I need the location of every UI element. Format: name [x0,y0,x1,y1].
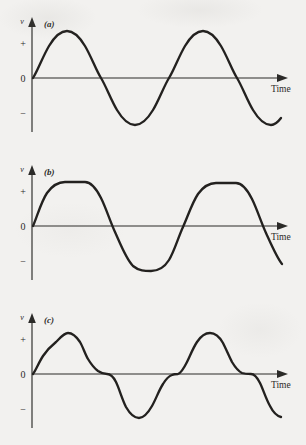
x-axis-arrow-b [277,222,288,230]
x-axis-label-a: Time [271,84,291,94]
tick-zero-c: 0 [21,369,26,380]
tick-negative-a: − [20,108,26,119]
tick-positive-c: + [20,334,26,345]
x-axis-arrow-a [277,74,288,82]
panel-id-a: (a) [44,19,55,29]
waveform-line-c [33,333,281,418]
tick-zero-b: 0 [21,221,26,232]
panel-id-b: (b) [44,167,55,177]
x-axis-arrow-c [277,370,288,378]
x-axis-label-c: Time [271,380,291,390]
tick-positive-a: + [20,38,26,49]
y-axis-label-b: v [20,165,24,174]
y-axis-arrow-a [28,17,36,27]
panel-id-c: (c) [44,315,54,325]
y-axis-label-c: v [20,313,24,322]
tick-zero-a: 0 [21,73,26,84]
tick-negative-c: − [20,404,26,415]
x-axis-label-b: Time [271,232,291,242]
chart-panel-b: v (b) + 0 − Time [0,148,306,296]
chart-panel-a: v (a) + 0 − Time [0,0,306,148]
tick-negative-b: − [20,256,26,267]
waveform-figure: v (a) + 0 − Time v (b) + 0 − Time [0,0,306,445]
y-axis-label-a: v [20,17,24,26]
chart-panel-c: v (c) + 0 − Time [0,296,306,444]
y-axis-arrow-c [28,313,36,323]
tick-positive-b: + [20,186,26,197]
y-axis-arrow-b [28,165,36,175]
